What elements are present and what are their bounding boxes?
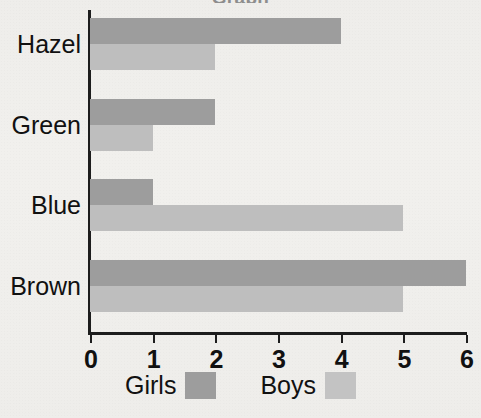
- legend-label: Girls: [125, 370, 176, 400]
- bar-green-girls: [90, 99, 215, 125]
- bar-brown-boys: [90, 286, 403, 312]
- x-axis-tick-mark: [153, 335, 155, 343]
- bar-blue-boys: [90, 205, 403, 231]
- bar-chart: Graph 0123456 HazelGreenBlueBrown GirlsB…: [0, 0, 481, 418]
- bar-brown-girls: [90, 260, 466, 286]
- chart-title: Graph: [0, 0, 481, 3]
- legend-swatch-boys: [325, 372, 356, 399]
- y-axis-category-label: Green: [0, 111, 81, 139]
- y-axis-category-label: Blue: [0, 191, 81, 219]
- legend-entry-girls: Girls: [125, 370, 216, 400]
- legend-label: Boys: [260, 370, 316, 400]
- plot-area: 0123456 HazelGreenBlueBrown: [90, 10, 466, 332]
- bar-hazel-boys: [90, 44, 215, 70]
- x-axis-tick-mark: [90, 335, 92, 343]
- x-axis-tick-mark: [215, 335, 217, 343]
- bar-group-hazel: Hazel: [90, 18, 466, 70]
- bar-group-brown: Brown: [90, 260, 466, 312]
- x-axis-tick-mark: [341, 335, 343, 343]
- bar-group-blue: Blue: [90, 179, 466, 231]
- chart-legend: GirlsBoys: [0, 370, 481, 400]
- legend-swatch-girls: [185, 372, 216, 399]
- legend-entry-boys: Boys: [260, 370, 356, 400]
- bar-hazel-girls: [90, 18, 341, 44]
- bar-group-green: Green: [90, 99, 466, 151]
- x-axis-tick-mark: [466, 335, 468, 343]
- y-axis-category-label: Brown: [0, 272, 81, 300]
- x-axis-tick-mark: [278, 335, 280, 343]
- y-axis-category-label: Hazel: [0, 30, 81, 58]
- x-axis-tick-mark: [403, 335, 405, 343]
- bar-green-boys: [90, 125, 153, 151]
- bar-blue-girls: [90, 179, 153, 205]
